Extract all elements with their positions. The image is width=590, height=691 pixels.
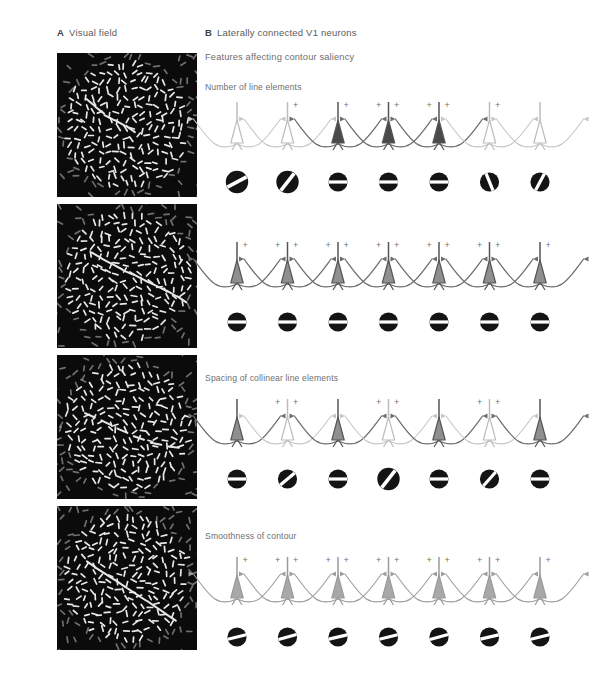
receptive-field <box>379 312 398 331</box>
section-label-3: Smoothness of contour <box>205 531 297 541</box>
receptive-field <box>328 627 347 646</box>
svg-text:+: + <box>495 397 500 407</box>
svg-text:+: + <box>477 397 482 407</box>
svg-text:+: + <box>394 555 399 565</box>
svg-text:+: + <box>394 240 399 250</box>
receptive-field <box>429 312 448 331</box>
svg-text:+: + <box>344 100 349 110</box>
receptive-field <box>328 172 347 191</box>
svg-text:+: + <box>275 240 280 250</box>
svg-text:+: + <box>445 100 450 110</box>
receptive-field <box>379 627 398 646</box>
receptive-field <box>429 627 448 646</box>
receptive-field <box>227 627 246 646</box>
svg-text:+: + <box>275 555 280 565</box>
svg-text:+: + <box>495 555 500 565</box>
svg-text:+: + <box>477 555 482 565</box>
stimulus-panel-3 <box>57 355 197 499</box>
row-smoothness-of-contour: ++++++++++++ <box>205 553 590 678</box>
receptive-field <box>429 469 448 488</box>
svg-text:+: + <box>427 240 432 250</box>
svg-text:+: + <box>326 555 331 565</box>
receptive-field <box>226 171 248 193</box>
svg-text:+: + <box>445 555 450 565</box>
stimulus-panel-1 <box>57 53 197 197</box>
stimulus-panel-2 <box>57 204 197 348</box>
panel-b-letter: B <box>205 27 212 38</box>
receptive-field <box>480 172 499 191</box>
panel-b-label: BLaterally connected V1 neurons <box>205 27 357 38</box>
svg-text:+: + <box>293 100 298 110</box>
panel-a-label: AVisual field <box>57 27 117 38</box>
svg-text:+: + <box>376 397 381 407</box>
svg-text:+: + <box>546 555 551 565</box>
receptive-field <box>278 312 297 331</box>
svg-text:+: + <box>546 240 551 250</box>
svg-text:+: + <box>445 240 450 250</box>
receptive-field <box>480 469 499 488</box>
svg-text:+: + <box>376 555 381 565</box>
svg-text:+: + <box>495 100 500 110</box>
receptive-field <box>530 469 549 488</box>
receptive-field <box>379 172 398 191</box>
panel-b-subtitle: Features affecting contour saliency <box>205 52 354 62</box>
stimulus-panel-4 <box>57 506 197 650</box>
receptive-field <box>278 627 297 646</box>
svg-text:+: + <box>427 100 432 110</box>
receptive-field <box>429 172 448 191</box>
svg-text:+: + <box>394 397 399 407</box>
svg-text:+: + <box>376 240 381 250</box>
svg-text:+: + <box>427 555 432 565</box>
svg-text:+: + <box>344 555 349 565</box>
row-number-of-line-elements: +++++++ <box>205 98 590 223</box>
panel-a-letter: A <box>57 27 64 38</box>
panel-a-title: Visual field <box>69 27 117 38</box>
row-dense-contour: ++++++++++++ <box>205 238 590 363</box>
receptive-field <box>328 469 347 488</box>
receptive-field <box>278 469 297 488</box>
svg-text:+: + <box>326 240 331 250</box>
svg-text:+: + <box>293 397 298 407</box>
svg-text:+: + <box>376 100 381 110</box>
svg-text:+: + <box>293 240 298 250</box>
svg-text:+: + <box>394 100 399 110</box>
receptive-field <box>377 468 399 490</box>
receptive-field <box>328 312 347 331</box>
receptive-field <box>480 312 499 331</box>
section-label-1: Number of line elements <box>205 82 302 92</box>
receptive-field <box>227 469 246 488</box>
svg-text:+: + <box>293 555 298 565</box>
svg-text:+: + <box>344 240 349 250</box>
receptive-field <box>480 627 499 646</box>
receptive-field <box>530 172 549 191</box>
svg-text:+: + <box>495 240 500 250</box>
svg-text:+: + <box>243 240 248 250</box>
section-label-2: Spacing of collinear line elements <box>205 373 338 383</box>
row-spacing-of-collinear-elements: ++++++ <box>205 395 590 520</box>
receptive-field <box>227 312 246 331</box>
receptive-field <box>530 312 549 331</box>
svg-text:+: + <box>243 555 248 565</box>
panel-b-title: Laterally connected V1 neurons <box>217 27 357 38</box>
receptive-field <box>530 627 549 646</box>
svg-text:+: + <box>275 397 280 407</box>
svg-text:+: + <box>477 240 482 250</box>
receptive-field <box>276 171 298 193</box>
